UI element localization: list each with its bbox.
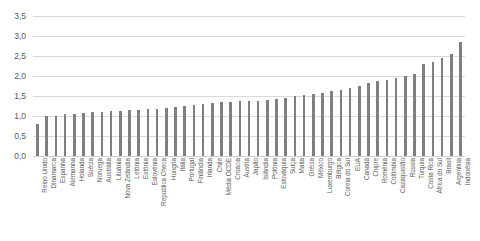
- bar: [312, 94, 315, 156]
- bar: [422, 64, 425, 156]
- x-axis-tick-label: Suécia: [86, 158, 92, 177]
- x-axis-tick-label: República Checa: [159, 158, 165, 206]
- x-axis-tick-label: Austrália: [104, 158, 110, 182]
- x-axis-tick-label: Portugal: [187, 158, 193, 181]
- bar: [55, 116, 58, 156]
- x-axis-tick-label: Polónia: [270, 158, 276, 179]
- bar: [432, 62, 435, 156]
- x-axis-tick-label: Croácia: [233, 158, 239, 180]
- bar: [294, 96, 297, 156]
- x-axis-tick-label: Colômbia: [389, 158, 395, 185]
- bar: [376, 81, 379, 156]
- x-axis-tick-label: Coreia do Sul: [343, 158, 349, 196]
- bar: [73, 114, 76, 156]
- x-axis-tick-label: Holanda: [77, 158, 83, 181]
- bar: [36, 124, 39, 156]
- x-axis-tick-label: Dinamarca: [49, 158, 55, 188]
- bar: [413, 74, 416, 156]
- bar: [45, 116, 48, 156]
- x-axis-tick-label: Luxemburgo: [325, 158, 331, 193]
- bar: [101, 112, 104, 156]
- bar: [321, 93, 324, 156]
- x-axis-tick-label: Canadá: [362, 158, 368, 180]
- bar: [91, 112, 94, 156]
- x-axis-labels: Reino UnidoDinamarcaEspanhaAlemanhaHolan…: [33, 158, 465, 240]
- x-axis-tick-label: Letónia: [132, 158, 138, 179]
- y-axis-tick-label: 0,0: [14, 152, 26, 161]
- x-axis-tick-label: Nova Zelândia: [123, 158, 129, 199]
- bar: [211, 103, 214, 156]
- x-axis-tick-label: Eslováquia: [279, 158, 285, 189]
- bar: [340, 90, 343, 156]
- x-axis-tick-label: Roménia: [380, 158, 386, 183]
- x-axis-tick-label: Finlândia: [196, 158, 202, 183]
- x-axis-tick-label: Espanha: [58, 158, 64, 183]
- x-axis-tick-label: México: [316, 158, 322, 178]
- x-axis-tick-label: Estónia: [141, 158, 147, 179]
- x-axis-tick-label: Lituânia: [114, 158, 120, 180]
- bar: [404, 76, 407, 156]
- bar: [82, 113, 85, 156]
- bar: [220, 102, 223, 156]
- x-axis-tick-label: Argentina: [454, 158, 460, 185]
- bar-chart: 0,00,51,01,52,02,53,03,5 Reino UnidoDina…: [0, 0, 480, 241]
- bar: [183, 106, 186, 156]
- x-axis-tick-label: Suíça: [288, 158, 294, 174]
- bar: [156, 109, 159, 156]
- bar: [257, 101, 260, 156]
- x-axis-tick-label: Malta: [297, 158, 303, 173]
- bar: [229, 102, 232, 156]
- y-axis-tick-label: 3,5: [14, 12, 26, 21]
- bar: [174, 107, 177, 156]
- x-axis-tick-label: Japão: [251, 158, 257, 175]
- bar: [349, 88, 352, 156]
- x-axis-tick-label: Noruega: [95, 158, 101, 182]
- bar: [110, 111, 113, 156]
- bars-layer: [33, 16, 465, 156]
- x-axis-tick-label: Áustria: [242, 158, 248, 178]
- x-axis-tick-label: Chile: [215, 158, 221, 172]
- x-axis-tick-label: Cazaquistão: [398, 158, 404, 193]
- x-axis-tick-label: Chipre: [371, 158, 377, 177]
- x-axis-tick-label: Bélgica: [334, 158, 340, 179]
- bar: [459, 42, 462, 156]
- x-axis-tick-label: Irlanda: [205, 158, 211, 177]
- x-axis-tick-label: Grécia: [307, 158, 313, 177]
- bar: [450, 54, 453, 156]
- bar: [248, 101, 251, 156]
- bar: [386, 80, 389, 156]
- bar: [64, 114, 67, 156]
- y-axis-tick-label: 3,0: [14, 32, 26, 41]
- bar: [303, 95, 306, 156]
- x-axis-tick-label: Eslovénia: [150, 158, 156, 185]
- bar: [275, 99, 278, 156]
- x-axis-tick-label: Turquia: [417, 158, 423, 179]
- x-axis-tick-label: Indonésia: [463, 158, 469, 185]
- bar: [147, 109, 150, 156]
- x-axis-tick-label: Reino Unido: [40, 158, 46, 193]
- bar: [165, 108, 168, 156]
- bar: [284, 98, 287, 156]
- x-axis-tick-label: Costa Rica: [426, 158, 432, 189]
- y-axis-tick-label: 1,5: [14, 92, 26, 101]
- x-axis-tick-label: Média OCDE: [224, 158, 230, 195]
- y-axis-tick-label: 2,0: [14, 72, 26, 81]
- x-axis-tick-label: Alemanha: [68, 158, 74, 186]
- x-axis-tick-label: Rússia: [408, 158, 414, 177]
- bar: [395, 78, 398, 156]
- bar: [202, 104, 205, 156]
- bar: [137, 110, 140, 156]
- x-axis-tick-label: Brasil: [444, 158, 450, 174]
- x-axis-tick-label: Hungria: [169, 158, 175, 180]
- bar: [358, 86, 361, 156]
- bar: [239, 101, 242, 156]
- bar: [128, 110, 131, 156]
- y-axis: 0,00,51,01,52,02,53,03,5: [0, 16, 30, 156]
- x-axis-tick-label: EUA: [353, 158, 359, 171]
- bar: [119, 111, 122, 156]
- y-axis-tick-label: 2,5: [14, 52, 26, 61]
- bar: [441, 58, 444, 156]
- y-axis-tick-label: 1,0: [14, 112, 26, 121]
- bar: [266, 100, 269, 156]
- x-axis-tick-label: África do Sul: [435, 158, 441, 194]
